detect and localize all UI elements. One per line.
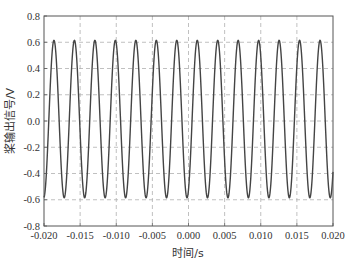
y-tick-label: -0.2 [23, 142, 40, 153]
x-tick-label: 0.015 [285, 230, 309, 241]
y-tick-label: -0.6 [23, 194, 40, 205]
y-tick-label: 0.6 [27, 37, 40, 48]
chart: -0.020-0.015-0.010-0.0050.0000.0050.0100… [0, 0, 350, 264]
x-tick-label: 0.010 [249, 230, 273, 241]
x-tick-label: -0.005 [139, 230, 166, 241]
y-axis-label: 桨输出信号/V [3, 87, 17, 154]
x-tick-label: -0.020 [30, 230, 57, 241]
y-tick-label: 0.2 [27, 89, 40, 100]
y-axis-ticks: -0.8-0.6-0.4-0.20.00.20.40.60.8 [23, 11, 47, 232]
y-tick-label: 0.0 [27, 116, 40, 127]
signal-curve [44, 40, 333, 197]
x-tick-label: -0.010 [103, 230, 130, 241]
y-tick-label: 0.4 [27, 63, 41, 74]
y-tick-label: -0.8 [23, 221, 40, 232]
y-tick-label: -0.4 [23, 168, 40, 179]
x-tick-label: 0.000 [177, 230, 201, 241]
x-tick-label: 0.005 [213, 230, 237, 241]
x-tick-label: -0.015 [67, 230, 94, 241]
y-tick-label: 0.8 [27, 11, 40, 22]
signal-line [44, 40, 333, 197]
x-tick-label: 0.020 [321, 230, 345, 241]
x-axis-label: 时间/s [172, 247, 204, 260]
